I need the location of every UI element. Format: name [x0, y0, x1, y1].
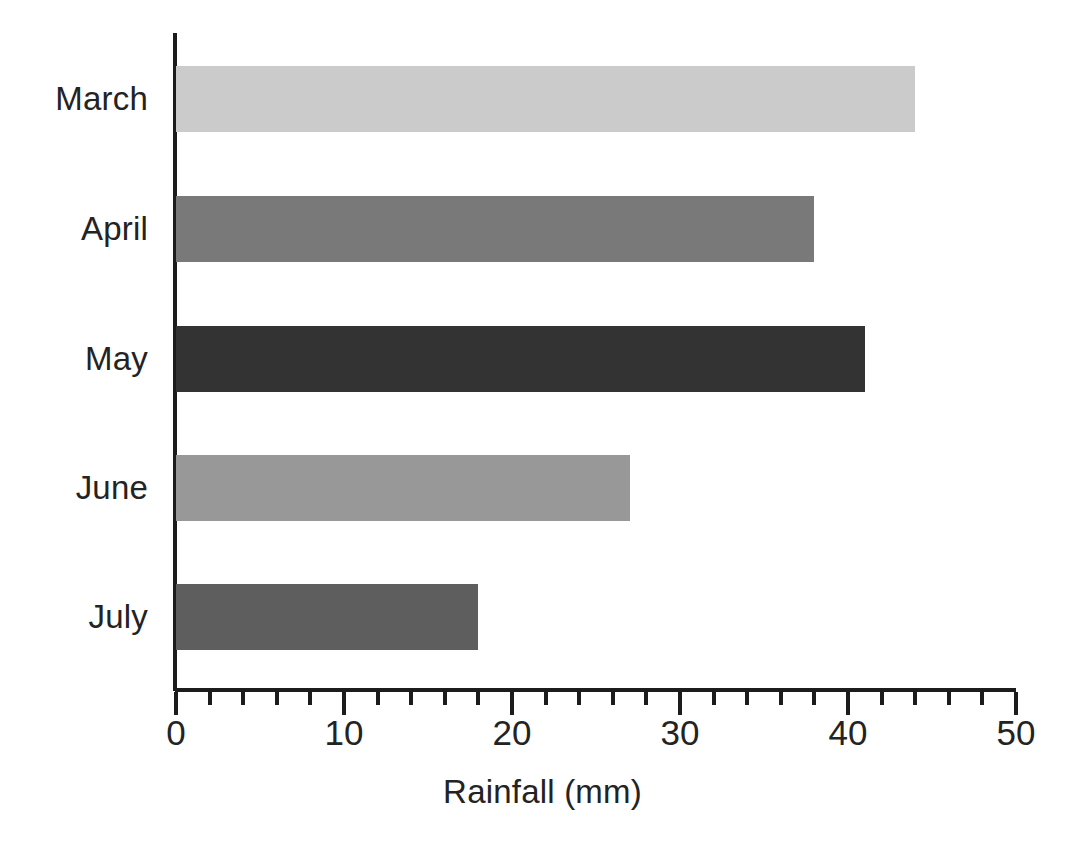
minor-tick-8 — [308, 692, 312, 705]
minor-tick-18 — [476, 692, 480, 705]
bar-april — [176, 196, 814, 262]
category-label-july: July — [0, 600, 148, 633]
bar-march — [176, 66, 915, 132]
minor-tick-26 — [611, 692, 615, 705]
x-tick-label-10: 10 — [284, 712, 404, 754]
minor-tick-42 — [880, 692, 884, 705]
minor-tick-44 — [913, 692, 917, 705]
x-tick-label-20: 20 — [452, 712, 572, 754]
minor-tick-6 — [275, 692, 279, 705]
x-axis-line — [175, 688, 1016, 692]
rainfall-bar-chart: MarchAprilMayJuneJuly 01020304050 Rainfa… — [0, 0, 1085, 859]
category-label-april: April — [0, 212, 148, 245]
minor-tick-16 — [443, 692, 447, 705]
x-tick-label-30: 30 — [620, 712, 740, 754]
minor-tick-32 — [712, 692, 716, 705]
minor-tick-38 — [812, 692, 816, 705]
minor-tick-2 — [208, 692, 212, 705]
plot-area: MarchAprilMayJuneJuly 01020304050 Rainfa… — [0, 0, 1085, 859]
minor-tick-12 — [376, 692, 380, 705]
minor-tick-36 — [779, 692, 783, 705]
minor-tick-48 — [980, 692, 984, 705]
category-label-march: March — [0, 82, 148, 115]
minor-tick-46 — [947, 692, 951, 705]
x-tick-label-40: 40 — [788, 712, 908, 754]
bar-july — [176, 584, 478, 650]
minor-tick-4 — [241, 692, 245, 705]
minor-tick-22 — [544, 692, 548, 705]
minor-tick-24 — [577, 692, 581, 705]
category-label-may: May — [0, 342, 148, 375]
minor-tick-14 — [409, 692, 413, 705]
category-label-june: June — [0, 471, 148, 504]
x-tick-label-0: 0 — [116, 712, 236, 754]
x-axis-title: Rainfall (mm) — [0, 772, 1085, 812]
bar-june — [176, 455, 630, 521]
x-tick-label-50: 50 — [956, 712, 1076, 754]
minor-tick-28 — [644, 692, 648, 705]
bar-may — [176, 326, 865, 392]
minor-tick-34 — [745, 692, 749, 705]
